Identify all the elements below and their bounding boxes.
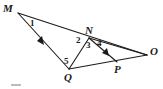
angle-label-4: 4 [97,39,102,48]
point-label-N: N [85,25,93,36]
geometry-canvas [0,0,163,89]
angle-label-1: 1 [30,19,35,28]
point-label-M: M [3,3,13,14]
point-label-P: P [114,64,121,75]
point-label-O: O [150,46,158,57]
geometry-figure: M N O P Q 1 2 3 4 5 [0,0,163,89]
angle-label-5: 5 [64,57,69,66]
segment-QO [69,55,147,69]
arrowhead-icon-np [102,48,109,56]
angle-label-3: 3 [86,41,91,50]
angle-label-2: 2 [76,36,81,45]
point-label-Q: Q [64,72,72,83]
cropped-text-artifact [11,84,21,86]
